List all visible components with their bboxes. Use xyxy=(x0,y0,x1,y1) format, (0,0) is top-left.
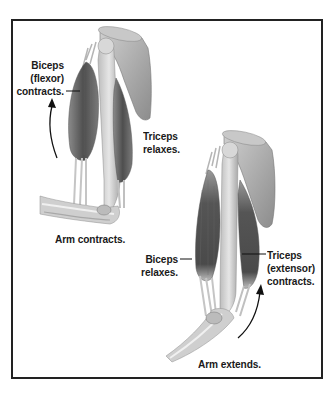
label-triceps-extensor-contracts: Triceps (extensor) contracts. xyxy=(267,249,315,288)
label-line: (flexor) xyxy=(17,72,64,85)
label-biceps-flexor-contracts: Biceps (flexor) contracts. xyxy=(17,59,64,98)
label-line: Triceps xyxy=(267,249,315,262)
label-biceps-relaxes: Biceps relaxes. xyxy=(141,253,178,279)
label-line: relaxes. xyxy=(141,266,178,279)
caption-text: Arm extends. xyxy=(198,358,261,370)
flexed-arm-illustration xyxy=(40,24,151,224)
label-triceps-relaxes: Triceps relaxes. xyxy=(143,130,180,156)
label-line: contracts. xyxy=(17,85,64,98)
caption-arm-contracts: Arm contracts. xyxy=(55,233,125,246)
caption-arm-extends: Arm extends. xyxy=(198,358,261,371)
label-line: Biceps xyxy=(17,59,64,72)
extended-arm-illustration xyxy=(166,128,275,362)
label-line: Triceps xyxy=(143,130,180,143)
label-line: (extensor) xyxy=(267,262,315,275)
label-line: contracts. xyxy=(267,275,315,288)
label-line: Biceps xyxy=(141,253,178,266)
label-line: relaxes. xyxy=(143,143,180,156)
caption-text: Arm contracts. xyxy=(55,233,125,245)
